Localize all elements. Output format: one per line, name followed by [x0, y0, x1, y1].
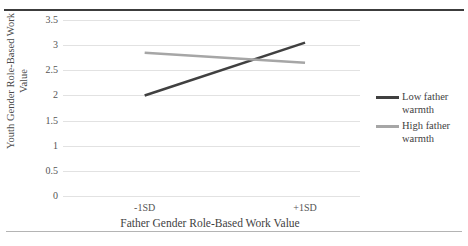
y-tick-label: 1.5 [46, 116, 59, 126]
x-axis-title: Father Gender Role-Based Work Value [40, 216, 380, 230]
x-tick-label: -1SD [134, 202, 155, 214]
legend-label-line1: High father [402, 119, 468, 132]
x-tick-label: +1SD [293, 202, 316, 214]
series-lines [63, 20, 360, 196]
chart-legend: Low fatherwarmthHigh fatherwarmth [376, 90, 468, 148]
series-line [145, 43, 305, 96]
top-divider [4, 9, 464, 11]
legend-label-line2: warmth [402, 103, 468, 116]
series-line [145, 53, 305, 63]
gridline [63, 196, 360, 197]
y-tick-label: 3.5 [46, 15, 59, 25]
legend-swatch-icon [376, 96, 399, 99]
legend-item[interactable]: High fatherwarmth [376, 119, 468, 145]
legend-item[interactable]: Low fatherwarmth [376, 90, 468, 116]
y-tick-label: 3 [53, 40, 58, 50]
chart-plot-container: Youth Gender Role-Based Work Value 00.51… [0, 12, 468, 230]
y-tick-label: 2.5 [46, 65, 59, 75]
chart-figure: Youth Gender Role-Based Work Value 00.51… [0, 0, 468, 246]
legend-swatch-icon [376, 125, 399, 128]
y-tick-label: 2 [53, 90, 58, 100]
legend-label-line1: Low father [402, 90, 468, 103]
x-axis-ticks: -1SD+1SD [63, 202, 360, 216]
y-axis-title-line1: Youth Gender Role-Based Work [5, 13, 16, 149]
y-axis-ticks: 00.511.522.533.5 [22, 20, 58, 196]
y-tick-label: 1 [53, 141, 58, 151]
legend-label-line2: warmth [402, 132, 468, 145]
bottom-divider [6, 231, 462, 232]
y-tick-label: 0 [53, 191, 58, 201]
plot-area [63, 20, 360, 196]
y-tick-label: 0.5 [46, 166, 59, 176]
